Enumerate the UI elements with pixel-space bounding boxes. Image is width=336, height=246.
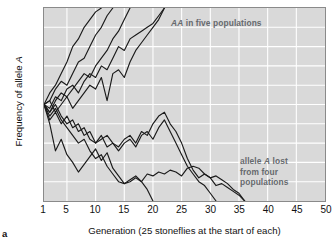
annotation-line: allele A lost	[240, 156, 289, 167]
x-tick-label: 15	[112, 204, 136, 215]
figure-panel: AA in five populations allele A lostfrom…	[0, 0, 336, 246]
series-line-pop-5-fixed	[44, 8, 164, 112]
x-tick-label: 40	[256, 204, 280, 215]
y-axis-label: Frequency of allele A	[13, 22, 24, 182]
annotation-allele-lost: allele A lostfrom fourpopulations	[240, 156, 289, 188]
series-line-pop-7-lost	[44, 105, 216, 202]
x-tick-label: 5	[54, 204, 78, 215]
annotation-aa-fixed: AA in five populations	[171, 18, 262, 29]
panel-letter: a	[2, 228, 7, 239]
annotation-line: populations	[240, 177, 289, 188]
x-tick-label: 25	[170, 204, 194, 215]
plot-area: AA in five populations allele A lostfrom…	[43, 7, 326, 202]
x-tick-label: 45	[285, 204, 309, 215]
annotation-line: from four	[240, 167, 289, 178]
x-tick-label: 20	[141, 204, 165, 215]
x-tick-label: 30	[198, 204, 222, 215]
x-axis-label: Generation (25 stoneflies at the start o…	[43, 225, 326, 236]
series-line-pop-1-fixed	[44, 8, 101, 105]
series-line-pop-6-lost	[44, 105, 153, 202]
x-tick-label: 10	[83, 204, 107, 215]
series-line-pop-9-lost	[44, 105, 245, 202]
series-line-pop-8-lost	[44, 105, 245, 202]
x-tick-label: 35	[227, 204, 251, 215]
x-tick-label: 50	[314, 204, 336, 215]
x-tick-label: 1	[31, 204, 55, 215]
